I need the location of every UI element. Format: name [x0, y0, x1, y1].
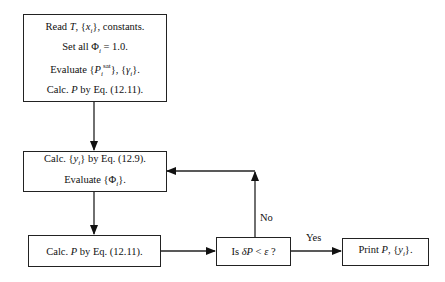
- calc-y-line-2: Evaluate {Φi}.: [64, 172, 126, 192]
- no-edge-label: No: [260, 212, 273, 223]
- init-line-2: Set all Φi = 1.0.: [62, 39, 128, 59]
- calc-p-step-box: Calc. P by Eq. (12.11).: [28, 235, 161, 267]
- print-line-1: Print P, {yi}.: [358, 242, 412, 262]
- calc-y-step-box: Calc. {yi} by Eq. (12.9). Evaluate {Φi}.: [23, 151, 167, 192]
- init-step-box: Read T, {xi}, constants. Set all Φi = 1.…: [23, 14, 167, 102]
- yes-edge-label: Yes: [306, 232, 321, 243]
- calc-p-line-1: Calc. P by Eq. (12.11).: [46, 244, 142, 259]
- decision-line-1: Is δP < ε ?: [231, 244, 275, 259]
- init-line-3: Evaluate {Pisat}, {γi}.: [50, 59, 140, 82]
- convergence-decision-box: Is δP < ε ?: [216, 237, 291, 266]
- print-result-box: Print P, {yi}.: [342, 238, 429, 266]
- init-line-1: Read T, {xi}, constants.: [46, 19, 145, 39]
- init-line-4: Calc. P by Eq. (12.11).: [47, 82, 143, 97]
- calc-y-line-1: Calc. {yi} by Eq. (12.9).: [44, 151, 146, 171]
